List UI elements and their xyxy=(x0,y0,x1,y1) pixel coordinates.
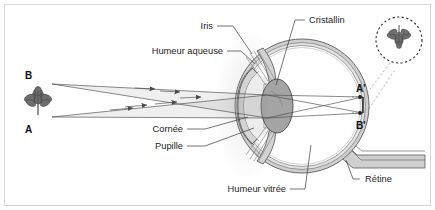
label-humeur-aqueuse: Humeur aqueuse xyxy=(152,46,223,56)
label-cornee: Cornée xyxy=(153,124,184,134)
label-humeur-vitree: Humeur vitrée xyxy=(228,184,286,194)
diagram-frame: B A A' B' xyxy=(0,0,435,210)
label-iris: Iris xyxy=(201,21,214,31)
image-point-a-prime-label: A' xyxy=(356,83,366,94)
label-retine: Rétine xyxy=(365,174,392,184)
object-point-b-label: B xyxy=(25,70,32,81)
diagram-canvas: B A A' B' xyxy=(4,4,431,206)
label-cristallin: Cristallin xyxy=(309,15,345,25)
eye-diagram-svg: B A A' B' xyxy=(5,5,431,206)
image-point-b-prime-label: B' xyxy=(356,120,366,131)
object-point-a-label: A xyxy=(25,124,32,135)
label-pupille: Pupille xyxy=(155,141,183,151)
object-flower: B A xyxy=(23,70,53,135)
inverted-image-inset xyxy=(367,17,422,109)
